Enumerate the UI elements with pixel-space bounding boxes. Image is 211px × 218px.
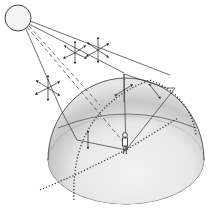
scatter-point-1 xyxy=(64,42,86,63)
sky-dome-diagram: Sky dome with sun and scattered skylight xyxy=(0,0,211,218)
sky-dome xyxy=(40,74,204,204)
